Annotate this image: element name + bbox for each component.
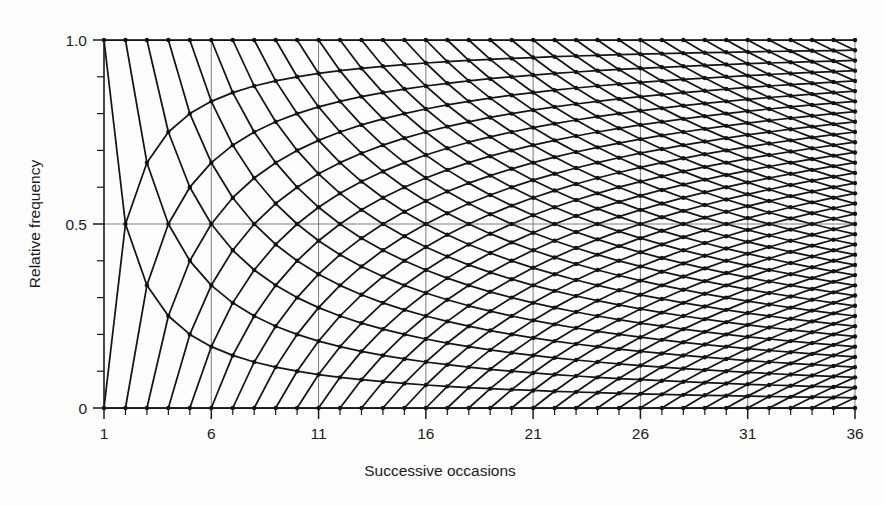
gridlines xyxy=(104,40,855,408)
x-tick-label: 36 xyxy=(846,425,863,442)
chart-figure: 1611162126313600.51.0 Successive occasio… xyxy=(0,0,884,506)
tick-labels: 1611162126313600.51.0 xyxy=(65,32,863,443)
x-tick-label: 31 xyxy=(739,425,756,442)
y-tick-label: 0 xyxy=(78,400,87,417)
x-tick-label: 6 xyxy=(207,425,216,442)
relative-frequency-nomogram: 1611162126313600.51.0 Successive occasio… xyxy=(0,0,884,506)
y-tick-label: 0.5 xyxy=(65,216,87,233)
x-tick-label: 1 xyxy=(100,425,109,442)
y-axis-title: Relative frequency xyxy=(26,160,43,289)
y-tick-label: 1.0 xyxy=(65,32,87,49)
x-tick-label: 26 xyxy=(632,425,649,442)
x-tick-label: 21 xyxy=(525,425,542,442)
x-axis-title: Successive occasions xyxy=(364,462,516,479)
x-tick-label: 16 xyxy=(417,425,434,442)
x-tick-label: 11 xyxy=(311,425,327,442)
